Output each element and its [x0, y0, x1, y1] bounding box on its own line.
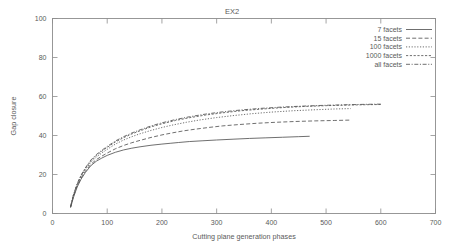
- x-tick-label: 300: [211, 219, 223, 226]
- series-line: [71, 136, 310, 207]
- y-tick-label: 40: [39, 132, 47, 139]
- series-line: [71, 104, 381, 206]
- series-line: [71, 109, 351, 207]
- y-tick-label: 60: [39, 93, 47, 100]
- series-line: [71, 120, 351, 207]
- x-tick-label: 600: [375, 219, 387, 226]
- line-chart: EX2 020406080100 0100200300400500600700 …: [0, 0, 449, 248]
- legend-label: 15 facets: [374, 35, 403, 42]
- legend-label: 1000 facets: [366, 52, 403, 59]
- series-group: [71, 104, 381, 208]
- legend-label: 7 facets: [377, 26, 402, 33]
- x-tick-label: 200: [156, 219, 168, 226]
- x-tick-label: 100: [101, 219, 113, 226]
- chart-legend: 7 facets15 facets100 facets1000 facetsal…: [366, 26, 432, 68]
- legend-label: all facets: [374, 61, 402, 68]
- y-tick-label: 80: [39, 54, 47, 61]
- y-tick-label: 100: [35, 15, 47, 22]
- x-tick-label: 500: [320, 219, 332, 226]
- x-tick-label: 400: [266, 219, 278, 226]
- x-axis-title: Cutting plane generation phases: [192, 232, 296, 241]
- series-line: [71, 105, 381, 207]
- y-tick-label: 0: [43, 210, 47, 217]
- y-axis-title: Gap closure: [9, 97, 18, 136]
- x-tick-label: 0: [51, 219, 55, 226]
- chart-figure: EX2 020406080100 0100200300400500600700 …: [0, 0, 449, 248]
- legend-label: 100 facets: [370, 43, 403, 50]
- x-tick-label: 700: [430, 219, 442, 226]
- chart-title: EX2: [225, 7, 239, 16]
- y-tick-label: 20: [39, 171, 47, 178]
